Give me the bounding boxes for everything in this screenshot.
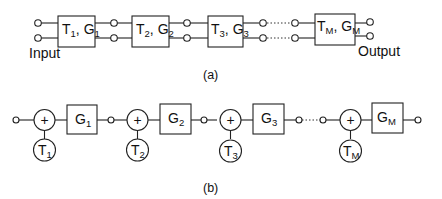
two-port-block-1: T1, G1 [58, 16, 100, 47]
terminal [111, 20, 118, 27]
terminal [292, 20, 299, 27]
figure-svg: T1, G1 T2, G2 T3, G3 TM, GM Input Output… [0, 0, 442, 199]
svg-text:T2, G2: T2, G2 [136, 21, 174, 39]
two-port-block-2: T2, G2 [132, 16, 174, 47]
chain-input-terminal [13, 117, 19, 123]
chain-output-terminal [415, 117, 421, 123]
output-terminal-bottom [367, 33, 374, 40]
cascade-figure: T1, G1 T2, G2 T3, G3 TM, GM Input Output… [0, 0, 442, 199]
stage-1: + T1 G1 [34, 105, 98, 161]
terminal [108, 117, 114, 123]
svg-text:T1, G1: T1, G1 [62, 21, 100, 39]
stage-m: + TM GM [340, 103, 404, 162]
input-label: Input [29, 45, 60, 61]
terminal [296, 117, 302, 123]
terminal [184, 35, 191, 42]
terminal [260, 35, 267, 42]
terminal [320, 117, 326, 123]
terminal [111, 35, 118, 42]
two-port-block-m: TM, GM [315, 14, 360, 45]
output-terminal-top [367, 19, 374, 26]
svg-text:+: + [226, 112, 234, 128]
diagram-a: T1, G1 T2, G2 T3, G3 TM, GM Input Output… [29, 14, 400, 82]
caption-a: (a) [203, 68, 218, 82]
input-terminal-top [35, 20, 42, 27]
caption-b: (b) [203, 181, 218, 195]
stage-2: + T2 G2 [127, 104, 192, 161]
svg-text:+: + [346, 112, 354, 128]
svg-text:T3, G3: T3, G3 [211, 21, 249, 39]
input-terminal-bottom [35, 35, 42, 42]
output-label: Output [358, 43, 400, 59]
terminal [260, 20, 267, 27]
diagram-b: + T1 G1 + T2 G2 + T3 G3 [13, 103, 421, 195]
terminal [201, 117, 207, 123]
terminal [184, 20, 191, 27]
svg-text:+: + [133, 112, 141, 128]
two-port-block-3: T3, G3 [208, 16, 249, 47]
stage-3: + T3 G3 [220, 104, 285, 162]
svg-text:+: + [40, 112, 48, 128]
terminal [292, 35, 299, 42]
